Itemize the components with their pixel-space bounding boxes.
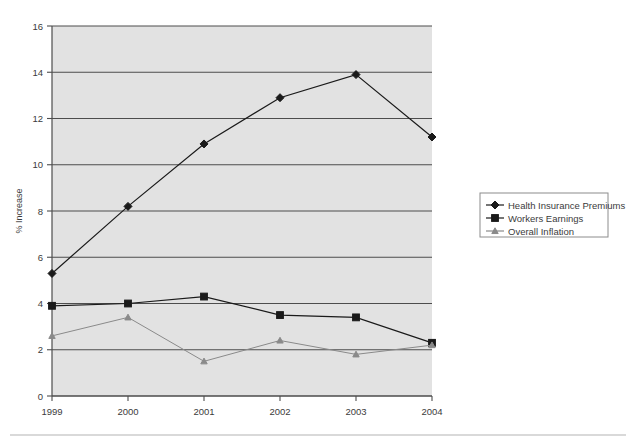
x-axis-tick-labels: 199920002001200220032004 <box>41 406 442 417</box>
square-marker <box>277 312 284 319</box>
square-marker <box>201 293 208 300</box>
y-tick-label-12: 12 <box>32 113 43 124</box>
x-axis <box>52 396 432 401</box>
square-marker <box>353 314 360 321</box>
y-tick-label-6: 6 <box>38 252 43 263</box>
square-marker <box>49 302 56 309</box>
legend-label: Workers Earnings <box>508 213 584 224</box>
y-axis <box>47 26 52 396</box>
x-tick-label-1999: 1999 <box>41 406 62 417</box>
y-tick-label-14: 14 <box>32 67 43 78</box>
legend-label: Health Insurance Premiums <box>508 200 625 211</box>
footer-divider <box>10 434 626 436</box>
y-tick-label-16: 16 <box>32 21 43 32</box>
y-tick-label-0: 0 <box>38 391 43 402</box>
x-tick-label-2001: 2001 <box>193 406 214 417</box>
chart-figure: 0246810121416 199920002001200220032004 %… <box>0 0 636 448</box>
y-tick-label-10: 10 <box>32 159 43 170</box>
line-chart-svg: 0246810121416 199920002001200220032004 %… <box>0 0 636 448</box>
x-tick-label-2004: 2004 <box>421 406 442 417</box>
x-tick-label-2000: 2000 <box>117 406 138 417</box>
square-marker <box>125 300 132 307</box>
x-tick-label-2002: 2002 <box>269 406 290 417</box>
x-tick-label-2003: 2003 <box>345 406 366 417</box>
y-tick-label-8: 8 <box>38 206 43 217</box>
y-tick-label-2: 2 <box>38 344 43 355</box>
chart-legend: Health Insurance PremiumsWorkers Earning… <box>480 193 625 237</box>
legend-label: Overall Inflation <box>508 226 574 237</box>
y-tick-label-4: 4 <box>38 298 43 309</box>
y-axis-tick-labels: 0246810121416 <box>32 21 43 402</box>
square-marker <box>492 215 499 222</box>
y-axis-title: % Increase <box>14 188 24 233</box>
